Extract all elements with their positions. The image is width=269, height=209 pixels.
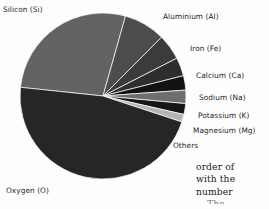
pie-label-potassium: Potassium (K) (198, 111, 249, 120)
side-text-line-2: with the (196, 173, 269, 185)
side-text-line-3: number (196, 186, 269, 198)
pie-label-others: Others (173, 141, 198, 150)
pie-label-iron: Iron (Fe) (190, 44, 221, 53)
pie-label-aluminium: Aluminium (Al) (163, 12, 219, 21)
pie-label-oxygen: Oxygen (O) (6, 186, 49, 195)
pie-label-sodium: Sodium (Na) (199, 93, 246, 102)
adjacent-column-text: order of with the number The (196, 161, 269, 204)
pie-slice-group (20, 13, 186, 179)
side-text-line-1: order of (196, 161, 269, 173)
pie-label-calcium: Calcium (Ca) (196, 71, 244, 80)
pie-label-silicon: Silicon (Si) (3, 5, 43, 14)
side-text-line-4: The (196, 198, 269, 204)
chart-figure: Silicon (Si) Aluminium (Al) Iron (Fe) Ca… (0, 0, 269, 209)
pie-label-magnesium: Magnesium (Mg) (193, 126, 256, 135)
